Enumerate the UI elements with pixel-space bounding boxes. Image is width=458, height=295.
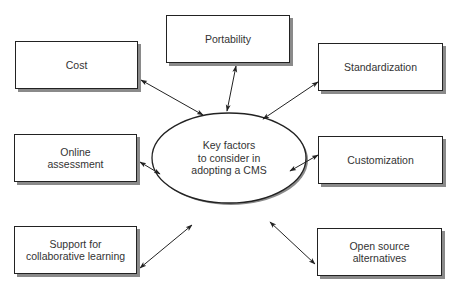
node-open-source: Open source alternatives [317, 228, 442, 276]
node-label: Standardization [344, 61, 417, 73]
center-label-line-1: Key factors [169, 139, 289, 152]
node-label-line-1: Support for [50, 238, 102, 250]
arrow-standardization [263, 82, 318, 119]
node-label-line-2: collaborative learning [26, 250, 125, 262]
arrow-cost [141, 80, 203, 115]
node-collaborative-learning: Support for collaborative learning [14, 226, 137, 274]
node-label: Customization [347, 154, 414, 166]
node-online-assessment: Online assessment [14, 134, 137, 182]
arrow-collaborative-learning [140, 225, 192, 268]
node-label-line-2: assessment [47, 158, 103, 170]
node-cost: Cost [15, 41, 138, 89]
node-customization: Customization [318, 136, 443, 184]
center-label-line-2: to consider in [169, 152, 289, 165]
center-label-line-3: adopting a CMS [169, 164, 289, 177]
node-label-line-1: Online [60, 146, 90, 158]
node-label-line-1: Open source [349, 240, 409, 252]
node-label: Cost [66, 59, 88, 71]
arrow-portability [227, 66, 236, 111]
node-portability: Portability [166, 15, 290, 63]
node-label-line-2: alternatives [353, 252, 407, 264]
arrow-open-source [270, 222, 315, 264]
node-label: Portability [205, 33, 251, 45]
node-standardization: Standardization [318, 43, 443, 91]
center-label: Key factors to consider in adopting a CM… [169, 139, 289, 177]
